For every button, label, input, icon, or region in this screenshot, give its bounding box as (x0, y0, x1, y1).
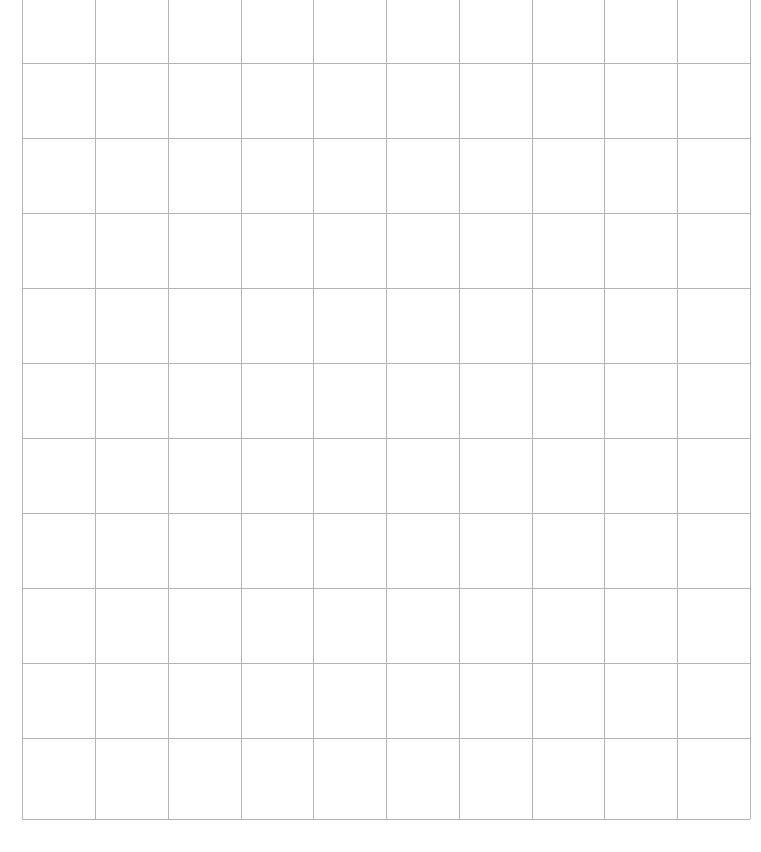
grid-cell-r10-c9[interactable] (605, 664, 677, 738)
grid-cell-r6-c10[interactable] (678, 364, 750, 438)
grid-cell-r2-c10[interactable] (678, 64, 750, 138)
grid-cell-r6-c6[interactable] (387, 364, 459, 438)
blank-grid-table[interactable] (22, 0, 750, 819)
grid-cell-r4-c9[interactable] (605, 214, 677, 288)
grid-cell-r3-c3[interactable] (169, 139, 241, 213)
grid-cell-r8-c8[interactable] (533, 514, 604, 588)
grid-cell-r1-c7[interactable] (460, 0, 532, 63)
grid-cell-r8-c3[interactable] (169, 514, 241, 588)
grid-cell-r8-c6[interactable] (387, 514, 459, 588)
grid-cell-r2-c8[interactable] (533, 64, 604, 138)
grid-cell-r1-c3[interactable] (169, 0, 241, 63)
grid-cell-r7-c5[interactable] (314, 439, 386, 513)
grid-cell-r8-c10[interactable] (678, 514, 750, 588)
grid-cell-r8-c7[interactable] (460, 514, 532, 588)
grid-cell-r2-c9[interactable] (605, 64, 677, 138)
grid-cell-r9-c8[interactable] (533, 589, 604, 663)
grid-cell-r5-c4[interactable] (242, 289, 313, 363)
grid-cell-r5-c2[interactable] (96, 289, 168, 363)
grid-cell-r5-c7[interactable] (460, 289, 532, 363)
grid-cell-r9-c3[interactable] (169, 589, 241, 663)
grid-cell-r3-c2[interactable] (96, 139, 168, 213)
grid-cell-r7-c3[interactable] (169, 439, 241, 513)
grid-cell-r1-c10[interactable] (678, 0, 750, 63)
grid-cell-r3-c10[interactable] (678, 139, 750, 213)
grid-cell-r6-c4[interactable] (242, 364, 313, 438)
grid-cell-r6-c5[interactable] (314, 364, 386, 438)
grid-cell-r2-c6[interactable] (387, 64, 459, 138)
grid-cell-r5-c8[interactable] (533, 289, 604, 363)
grid-cell-r8-c1[interactable] (23, 514, 95, 588)
grid-cell-r4-c10[interactable] (678, 214, 750, 288)
grid-cell-r10-c7[interactable] (460, 664, 532, 738)
grid-cell-r7-c2[interactable] (96, 439, 168, 513)
grid-cell-r7-c9[interactable] (605, 439, 677, 513)
grid-cell-r7-c10[interactable] (678, 439, 750, 513)
grid-cell-r6-c2[interactable] (96, 364, 168, 438)
grid-cell-r3-c1[interactable] (23, 139, 95, 213)
grid-cell-r1-c9[interactable] (605, 0, 677, 63)
grid-cell-r5-c10[interactable] (678, 289, 750, 363)
grid-cell-r3-c4[interactable] (242, 139, 313, 213)
grid-cell-r10-c3[interactable] (169, 664, 241, 738)
grid-cell-r7-c8[interactable] (533, 439, 604, 513)
grid-cell-r3-c6[interactable] (387, 139, 459, 213)
grid-cell-r2-c4[interactable] (242, 64, 313, 138)
grid-cell-r2-c7[interactable] (460, 64, 532, 138)
grid-cell-r3-c7[interactable] (460, 139, 532, 213)
grid-cell-r6-c7[interactable] (460, 364, 532, 438)
grid-cell-r1-c6[interactable] (387, 0, 459, 63)
grid-cell-r6-c9[interactable] (605, 364, 677, 438)
grid-cell-r1-c2[interactable] (96, 0, 168, 63)
grid-cell-r8-c5[interactable] (314, 514, 386, 588)
grid-cell-r9-c7[interactable] (460, 589, 532, 663)
grid-cell-r2-c1[interactable] (23, 64, 95, 138)
grid-cell-r9-c2[interactable] (96, 589, 168, 663)
grid-cell-r7-c7[interactable] (460, 439, 532, 513)
grid-cell-r9-c9[interactable] (605, 589, 677, 663)
grid-cell-r9-c6[interactable] (387, 589, 459, 663)
grid-cell-r9-c5[interactable] (314, 589, 386, 663)
grid-cell-r6-c3[interactable] (169, 364, 241, 438)
grid-cell-r2-c2[interactable] (96, 64, 168, 138)
grid-cell-r4-c2[interactable] (96, 214, 168, 288)
grid-cell-r9-c4[interactable] (242, 589, 313, 663)
grid-cell-r10-c2[interactable] (96, 664, 168, 738)
grid-cell-r1-c5[interactable] (314, 0, 386, 63)
grid-cell-r3-c8[interactable] (533, 139, 604, 213)
grid-cell-r10-c5[interactable] (314, 664, 386, 738)
grid-cell-r1-c4[interactable] (242, 0, 313, 63)
grid-cell-r8-c2[interactable] (96, 514, 168, 588)
grid-cell-r1-c1[interactable] (23, 0, 95, 63)
grid-cell-r2-c5[interactable] (314, 64, 386, 138)
grid-cell-r3-c9[interactable] (605, 139, 677, 213)
grid-cell-r10-c8[interactable] (533, 664, 604, 738)
grid-cell-r6-c8[interactable] (533, 364, 604, 438)
grid-cell-r10-c1[interactable] (23, 664, 95, 738)
grid-cell-r10-c4[interactable] (242, 664, 313, 738)
grid-cell-r4-c6[interactable] (387, 214, 459, 288)
grid-cell-r6-c1[interactable] (23, 364, 95, 438)
grid-cell-r5-c3[interactable] (169, 289, 241, 363)
grid-cell-r4-c1[interactable] (23, 214, 95, 288)
grid-cell-r9-c10[interactable] (678, 589, 750, 663)
grid-cell-r4-c7[interactable] (460, 214, 532, 288)
grid-cell-r4-c8[interactable] (533, 214, 604, 288)
grid-cell-r5-c5[interactable] (314, 289, 386, 363)
grid-cell-r9-c1[interactable] (23, 589, 95, 663)
grid-cell-r7-c6[interactable] (387, 439, 459, 513)
grid-cell-r8-c4[interactable] (242, 514, 313, 588)
grid-cell-r1-c8[interactable] (533, 0, 604, 63)
grid-cell-r5-c9[interactable] (605, 289, 677, 363)
grid-cell-r10-c6[interactable] (387, 664, 459, 738)
grid-cell-r5-c1[interactable] (23, 289, 95, 363)
grid-cell-r2-c3[interactable] (169, 64, 241, 138)
grid-cell-r4-c3[interactable] (169, 214, 241, 288)
grid-cell-r4-c5[interactable] (314, 214, 386, 288)
grid-cell-r7-c4[interactable] (242, 439, 313, 513)
grid-cell-r5-c6[interactable] (387, 289, 459, 363)
grid-cell-r3-c5[interactable] (314, 139, 386, 213)
grid-cell-r4-c4[interactable] (242, 214, 313, 288)
grid-cell-r7-c1[interactable] (23, 439, 95, 513)
grid-cell-r8-c9[interactable] (605, 514, 677, 588)
